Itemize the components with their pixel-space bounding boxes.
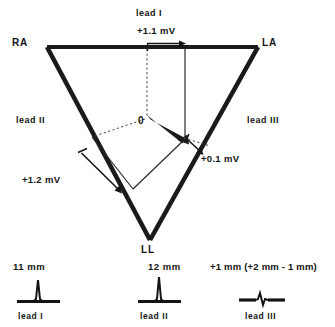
- mean-qrs-vector: [148, 116, 190, 145]
- vertex-label-left-leg: LL: [141, 245, 155, 255]
- ecg-trace-lead-III-waveform: [256, 293, 268, 305]
- ecg-amplitude-lead-I: 11 mm: [13, 262, 45, 272]
- ecg-trace-label-lead-III: lead III: [245, 312, 276, 321]
- triangle-outline: [47, 47, 258, 240]
- lead-I-top-label: lead I: [136, 9, 162, 18]
- lead-III-side-label: lead III: [247, 116, 279, 125]
- ecg-amplitude-lead-II: 12 mm: [148, 262, 181, 272]
- parallelogram-side-bottom: [133, 140, 184, 189]
- lead-III-axis-line: [150, 47, 258, 240]
- einthoven-triangle-figure: lead I +1.1 mV RA LA lead II lead III 0 …: [0, 0, 335, 327]
- ecg-trace-lead-II: [138, 277, 181, 302]
- ecg-trace-label-lead-II: lead II: [140, 312, 168, 321]
- origin-label: 0: [138, 116, 144, 126]
- vertex-label-right-arm: RA: [12, 38, 28, 48]
- ecg-trace-label-lead-I: lead I: [18, 312, 43, 321]
- ecg-trace-lead-III: [239, 293, 285, 305]
- vertex-label-left-arm: LA: [262, 38, 277, 48]
- lead-II-axis-line: [47, 47, 150, 240]
- figure-vector-graphics: [0, 0, 335, 327]
- lead-II-side-label: lead II: [16, 116, 45, 125]
- ecg-trace-lead-I-waveform: [34, 280, 42, 301]
- lead-III-projection-value: +0.1 mV: [201, 154, 239, 164]
- ecg-trace-lead-I: [17, 280, 60, 302]
- lead-II-arrow-tick-top: [78, 149, 87, 153]
- ecg-trace-lead-II-waveform: [155, 277, 163, 301]
- lead-I-projection-value: +1.1 mV: [137, 26, 175, 36]
- parallelogram-side-left: [92, 137, 133, 189]
- lead-II-projection-value: +1.2 mV: [22, 175, 60, 185]
- ecg-amplitude-lead-III: +1 mm (+2 mm - 1 mm): [210, 262, 317, 272]
